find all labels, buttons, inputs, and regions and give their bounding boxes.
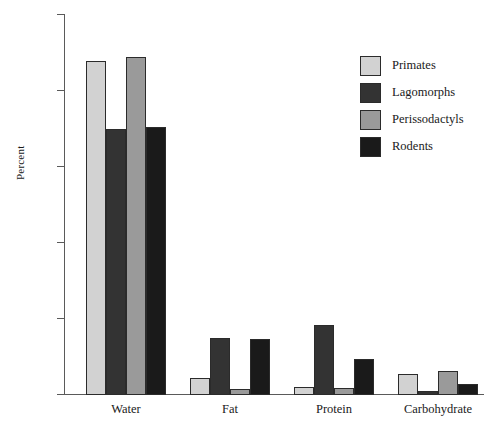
x-axis-label-carbohydrate: Carbohydrate — [378, 403, 498, 416]
y-axis-tick — [57, 90, 65, 91]
y-axis-title: Percent — [14, 146, 26, 180]
y-axis-tick — [57, 166, 65, 167]
legend-swatch-icon — [360, 83, 381, 103]
bar-rodents-fat — [250, 339, 270, 395]
legend: PrimatesLagomorphsPerissodactylsRodents — [360, 52, 495, 160]
legend-item-lagomorphs: Lagomorphs — [360, 79, 495, 106]
bar-lagomorphs-water — [106, 129, 126, 395]
bar-rodents-protein — [354, 359, 374, 395]
bar-lagomorphs-fat — [210, 338, 230, 395]
legend-label: Primates — [392, 59, 436, 72]
bar-primates-water — [86, 61, 106, 395]
x-axis-label-water: Water — [66, 403, 186, 416]
bar-perissodactyls-carbohydrate — [438, 371, 458, 395]
bar-rodents-carbohydrate — [458, 384, 478, 395]
bar-chart-figure: Percent 020406080100 WaterFatProteinCarb… — [0, 0, 501, 434]
bar-lagomorphs-protein — [314, 325, 334, 395]
y-axis-tick — [57, 318, 65, 319]
legend-item-primates: Primates — [360, 52, 495, 79]
bar-perissodactyls-water — [126, 57, 146, 395]
bar-primates-carbohydrate — [398, 374, 418, 395]
legend-swatch-icon — [360, 56, 381, 76]
x-axis-label-fat: Fat — [170, 403, 290, 416]
bar-primates-protein — [294, 387, 314, 395]
bar-primates-fat — [190, 378, 210, 395]
y-axis-tick — [57, 242, 65, 243]
legend-swatch-icon — [360, 110, 381, 130]
x-axis-label-protein: Protein — [274, 403, 394, 416]
bar-perissodactyls-fat — [230, 389, 250, 395]
legend-label: Lagomorphs — [392, 86, 455, 99]
legend-label: Perissodactyls — [392, 113, 464, 126]
legend-label: Rodents — [392, 140, 433, 153]
bar-rodents-water — [146, 127, 166, 395]
y-axis-tick — [57, 394, 65, 395]
legend-item-perissodactyls: Perissodactyls — [360, 106, 495, 133]
bar-perissodactyls-protein — [334, 388, 354, 395]
legend-item-rodents: Rodents — [360, 133, 495, 160]
y-axis-tick — [57, 14, 65, 15]
bar-lagomorphs-carbohydrate — [418, 391, 438, 395]
y-axis-line — [64, 15, 65, 395]
legend-swatch-icon — [360, 137, 381, 157]
